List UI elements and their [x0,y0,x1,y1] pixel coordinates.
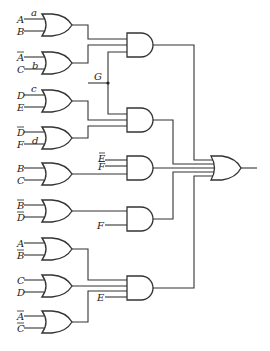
svg-text:D: D [16,90,25,101]
or-gate-5 [24,163,72,185]
svg-text:B: B [16,26,24,37]
svg-text:B: B [16,200,24,211]
svg-text:E: E [16,102,25,113]
or-gate-7 [24,238,72,260]
and-gate-1 [127,33,153,57]
svg-text:D: D [16,127,25,138]
svg-text:C: C [17,64,25,75]
or-gate-9 [24,311,72,333]
svg-text:G: G [94,71,102,82]
svg-text:F: F [96,220,105,231]
svg-text:C: C [17,323,25,334]
and-gate-2 [127,108,153,132]
output-or-gate [211,156,241,180]
svg-text:C: C [17,275,25,286]
or-gate-6 [24,200,72,222]
svg-text:A: A [16,311,24,322]
and-gate-3 [127,156,153,180]
svg-text:a: a [31,7,37,18]
svg-text:A: A [16,52,24,63]
or-gate-8 [24,275,72,297]
svg-text:E: E [96,292,105,303]
svg-text:A: A [16,14,24,25]
svg-text:D: D [16,287,25,298]
and-gate-4 [127,207,153,231]
svg-text:A: A [16,238,24,249]
svg-text:d: d [32,135,38,146]
logic-circuit-diagram: A B a A C b D E c D F d B C B D A B C D … [0,0,270,351]
and-gate-5 [127,276,153,300]
junction-dot [106,81,109,84]
svg-text:c: c [31,83,37,94]
svg-text:C: C [17,175,25,186]
svg-text:B: B [16,163,24,174]
svg-text:D: D [16,212,25,223]
svg-text:F: F [97,161,106,172]
svg-text:B: B [16,250,24,261]
svg-text:b: b [32,60,38,71]
svg-text:F: F [16,139,25,150]
